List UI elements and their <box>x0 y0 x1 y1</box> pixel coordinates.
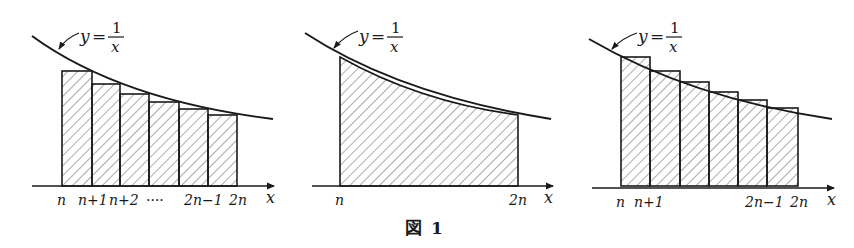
rectangles <box>62 71 237 186</box>
rect-6 <box>767 108 798 186</box>
rect-1 <box>621 57 650 186</box>
curve-label-den: x <box>390 38 399 56</box>
panel-right-rectangles: y = 1 x n n+1 2n−1 2n x <box>589 19 836 210</box>
tick-n-plus-1: n+1 <box>78 192 108 208</box>
shaded-area <box>340 57 518 186</box>
tick-n: n <box>616 194 625 210</box>
tick-2n-minus-1: 2n−1 <box>744 194 784 210</box>
curve-label-eq: = <box>371 26 385 46</box>
curve-label-y: y <box>637 26 648 46</box>
curve-label-den: x <box>111 38 120 56</box>
rect-2 <box>92 84 120 186</box>
figure-caption: 図 1 <box>405 218 443 238</box>
panel-left-rectangles: y = 1 x n n+1 n+2 ···· 2n−1 2n x <box>32 19 275 208</box>
tick-2n-minus-1: 2n−1 <box>183 192 223 208</box>
rect-4 <box>709 92 738 186</box>
tick-2n: 2n <box>228 192 247 208</box>
tick-2n: 2n <box>789 194 808 210</box>
curve-label-eq: = <box>92 26 106 46</box>
leader-arrow <box>59 33 79 49</box>
curve-label-num: 1 <box>112 19 122 37</box>
tick-n-plus-2: n+2 <box>109 192 139 208</box>
rect-2 <box>650 71 680 186</box>
tick-n-plus-1: n+1 <box>634 194 664 210</box>
axis-label-x: x <box>266 188 275 207</box>
curve-label-num: 1 <box>670 19 680 37</box>
rect-3 <box>120 94 149 186</box>
rect-4 <box>149 102 179 186</box>
curve-label: y = 1 x <box>79 19 124 56</box>
curve-label: y = 1 x <box>637 19 682 56</box>
rect-5 <box>179 109 208 186</box>
tick-n: n <box>335 192 344 208</box>
tick-n: n <box>57 192 66 208</box>
caption-kanji: 図 <box>405 218 422 238</box>
tick-ellipsis: ···· <box>146 192 164 208</box>
rect-5 <box>738 100 767 186</box>
figure-1: y = 1 x n n+1 n+2 ···· 2n−1 2n x y = 1 x <box>0 0 854 248</box>
curve-label-num: 1 <box>391 19 401 37</box>
tick-labels: n 2n x <box>335 188 553 208</box>
axis-label-x: x <box>544 188 553 207</box>
tick-labels: n n+1 n+2 ···· 2n−1 2n x <box>57 188 275 208</box>
tick-2n: 2n <box>508 192 527 208</box>
rect-1 <box>62 71 92 186</box>
tick-labels: n n+1 2n−1 2n x <box>616 190 836 210</box>
leader-arrow <box>612 33 637 49</box>
rect-3 <box>680 82 709 186</box>
curve-label: y = 1 x <box>358 19 403 56</box>
curve-label-y: y <box>79 26 90 46</box>
curve-label-eq: = <box>650 26 664 46</box>
panel-middle-integral: y = 1 x n 2n x <box>305 19 553 208</box>
rectangles <box>621 57 798 186</box>
caption-number: 1 <box>431 218 443 238</box>
axis-label-x: x <box>827 190 836 209</box>
curve-label-den: x <box>669 38 678 56</box>
rect-6 <box>208 115 237 186</box>
curve-label-y: y <box>358 26 369 46</box>
leader-arrow <box>334 31 358 48</box>
